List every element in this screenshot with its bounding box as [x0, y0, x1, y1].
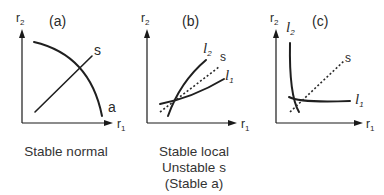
y-axis-label: r2	[270, 11, 279, 27]
curve-label-s: s	[220, 50, 226, 64]
line-s-dotted	[160, 67, 219, 112]
curve-label-l1: l1	[225, 67, 234, 85]
curve-l2	[168, 60, 206, 116]
caption-line-2: Unstable s	[162, 160, 226, 175]
y-axis-arrow-icon	[144, 29, 150, 38]
y-axis-label: r2	[141, 11, 150, 27]
panel-title: (a)	[49, 13, 66, 29]
curve-label-s: s	[94, 42, 101, 58]
line-s-dotted	[290, 60, 345, 112]
caption-line-1: Stable local	[159, 144, 229, 159]
panel-c: r2 r1 (c) l2 s l1	[270, 11, 375, 133]
panel-a: r2 r1 (a) s a Stable normal	[16, 11, 126, 159]
panel-title: (b)	[182, 13, 199, 29]
line-s	[35, 56, 92, 112]
y-axis-arrow-icon	[19, 29, 25, 38]
x-axis-label: r1	[117, 117, 126, 133]
curve-label-l2: l2	[203, 40, 212, 58]
x-axis-label: r1	[366, 117, 375, 133]
curve-label-l1: l1	[355, 91, 364, 109]
panel-b: r2 r1 (b) l2 s l1 Stable local Unstable …	[141, 11, 250, 191]
curve-label-l2: l2	[286, 19, 295, 37]
curve-label-a: a	[108, 99, 116, 115]
curve-l1	[289, 97, 350, 102]
phase-diagrams: r2 r1 (a) s a Stable normal r2 r1 (b) l2…	[0, 0, 384, 195]
curve-label-s: s	[345, 51, 351, 65]
x-axis-arrow-icon	[354, 120, 363, 126]
curve-l1	[160, 79, 224, 104]
panel-title: (c)	[312, 13, 328, 29]
x-axis-arrow-icon	[228, 120, 237, 126]
x-axis-arrow-icon	[104, 120, 113, 126]
caption-line-1: Stable normal	[24, 144, 107, 159]
caption-line-3: (Stable a)	[165, 176, 224, 191]
y-axis-label: r2	[16, 11, 25, 27]
x-axis-label: r1	[241, 117, 250, 133]
curve-l2	[290, 43, 299, 112]
y-axis-arrow-icon	[273, 29, 279, 38]
